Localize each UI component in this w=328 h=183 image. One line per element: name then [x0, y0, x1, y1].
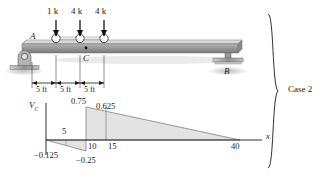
roller-ground-plate	[215, 62, 241, 64]
pin-support-a	[3, 51, 45, 76]
case-label: Case 2	[288, 84, 312, 94]
load-label-1: 1 k	[47, 6, 58, 16]
roller-base-plate	[213, 58, 243, 62]
x-tick-label-40: 40	[231, 141, 240, 151]
influence-line-plot	[46, 103, 262, 155]
case-brace	[268, 14, 278, 168]
point-c-marker	[85, 47, 88, 50]
pin-base-plate	[10, 66, 39, 70]
support-label-a: A	[30, 31, 36, 41]
load-label-3: 4 k	[95, 6, 106, 16]
value-label-075: 0.75	[71, 96, 86, 106]
dimension-label-1: 5 ft	[36, 85, 47, 94]
dimension-label-2: 5 ft	[60, 85, 71, 94]
positive-influence-area	[86, 107, 240, 140]
value-label-0625: 0.625	[96, 101, 115, 111]
load-label-2: 4 k	[71, 6, 82, 16]
value-label-neg025: −0.25	[76, 155, 96, 165]
value-label-neg0125: −0.125	[34, 150, 58, 160]
y-axis-label-sub: C	[35, 106, 39, 112]
beam-front-face	[22, 44, 238, 53]
x-axis-label: x	[266, 131, 270, 141]
pin-hinge	[21, 53, 27, 59]
x-tick-label-15: 15	[108, 141, 117, 151]
beam-assembly	[3, 20, 248, 88]
x-tick-label-10: 10	[88, 141, 97, 151]
support-label-b: B	[224, 66, 230, 76]
dimension-label-3: 5 ft	[84, 85, 95, 94]
x-tick-label-5: 5	[62, 126, 66, 136]
roller-post	[225, 53, 231, 58]
point-label-c: C	[83, 53, 89, 63]
y-axis-label: VC	[29, 100, 39, 112]
